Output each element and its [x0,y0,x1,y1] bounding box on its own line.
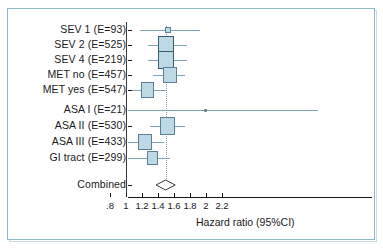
row-label-combined: Combined [77,178,126,190]
row-label-tick [128,30,132,31]
estimate-box [163,67,176,82]
x-tick [206,193,207,197]
estimate-box [141,82,155,98]
x-tick [174,193,175,197]
row-label-tick [128,75,132,76]
estimate-point [204,109,207,112]
row-label-tick [128,185,132,186]
confidence-interval-line [128,110,318,111]
combined-diamond [155,179,176,191]
row-label: SEV 4 (E=219) [54,53,126,65]
x-tick [126,193,127,197]
row-label-tick [128,45,132,46]
row-label: SEV 1 (E=93) [60,23,126,35]
row-label: GI tract (E=299) [49,151,126,163]
x-axis-line [128,197,372,198]
x-tick [110,193,111,197]
row-label-tick [128,126,132,127]
forest-plot-figure: SEV 1 (E=93)SEV 2 (E=525)SEV 4 (E=219)ME… [0,0,383,249]
x-tick [222,193,223,197]
row-label: ASA I (E=21) [64,103,126,115]
row-label: SEV 2 (E=525) [54,38,126,50]
row-label: ASA II (E=530) [55,119,126,131]
plot-area: SEV 1 (E=93)SEV 2 (E=525)SEV 4 (E=219)ME… [0,0,383,249]
row-label-tick [128,90,132,91]
row-label-tick [128,60,132,61]
row-label: MET yes (E=547) [43,83,126,95]
estimate-box [147,151,159,165]
estimate-box [165,27,171,33]
estimate-box [160,117,175,135]
x-tick [158,193,159,197]
x-tick-label: 2.2 [208,200,236,211]
x-tick [190,193,191,197]
estimate-box [138,134,152,151]
x-tick [142,193,143,197]
row-label: MET no (E=457) [47,68,126,80]
row-label-column: SEV 1 (E=93)SEV 2 (E=525)SEV 4 (E=219)ME… [14,0,126,249]
axis-title-x: Hazard ratio (95%CI) [196,216,295,228]
row-label: ASA III (E=433) [52,135,126,147]
